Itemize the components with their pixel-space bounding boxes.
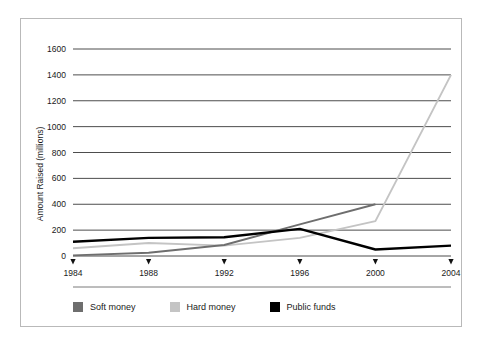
legend-swatch-icon [270,302,280,312]
legend-item-label: Hard money [187,302,236,312]
y-axis-tick-label: 0 [61,251,66,261]
chart-plot-area: 02004006008001000120014001600 1984198819… [21,19,463,328]
y-axis-tick-label: 1400 [47,70,66,80]
x-axis-tick-marker [70,259,75,265]
x-axis-tick-label: 1996 [290,268,309,278]
x-axis-tick-marker [448,259,453,265]
y-axis-tick-label: 1000 [47,122,66,132]
x-axis-tick-label: 1984 [64,268,83,278]
x-axis-tick-marker [297,259,302,265]
x-axis-tick-label: 2000 [366,268,385,278]
data-series-group [73,75,451,255]
x-axis-tick-label: 2004 [442,268,461,278]
y-axis-tick-label: 600 [52,173,66,183]
x-axis-tick-marks [70,259,453,265]
legend-item-label: Soft money [90,302,136,312]
x-axis-tick-labels: 198419881992199620002004 [64,268,461,278]
series-line-public-funds [73,229,451,250]
gridlines-group [73,49,451,256]
legend-item-public-funds[interactable]: Public funds [270,302,336,312]
y-axis-title: Amount Raised (millions) [35,127,45,222]
legend-item-soft-money[interactable]: Soft money [73,302,136,312]
legend-swatch-icon [73,302,83,312]
x-axis-tick-marker [222,259,227,265]
y-axis-tick-label: 200 [52,225,66,235]
x-axis-tick-marker [373,259,378,265]
x-axis-tick-marker [146,259,151,265]
legend-item-hard-money[interactable]: Hard money [170,302,236,312]
y-axis-tick-label: 800 [52,148,66,158]
legend-item-label: Public funds [287,302,336,312]
x-axis-tick-label: 1992 [215,268,234,278]
y-axis-tick-label: 400 [52,199,66,209]
legend-swatch-icon [170,302,180,312]
y-axis-tick-label: 1200 [47,96,66,106]
chart-figure-frame: 02004006008001000120014001600 1984198819… [20,18,462,327]
y-axis-tick-labels: 02004006008001000120014001600 [47,44,66,261]
y-axis-tick-label: 1600 [47,44,66,54]
x-axis-tick-label: 1988 [139,268,158,278]
line-chart: 02004006008001000120014001600 1984198819… [21,19,463,328]
chart-legend: Soft moneyHard moneyPublic funds [73,296,453,318]
